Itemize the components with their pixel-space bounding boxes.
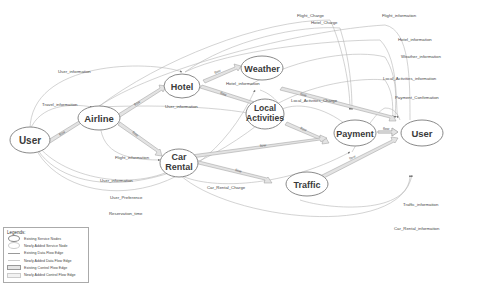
svg-text:Hotel: Hotel — [171, 82, 194, 92]
svg-text:Local: Local — [254, 103, 276, 113]
label-user-information: User_information — [100, 178, 133, 183]
svg-text:Activities: Activities — [246, 113, 284, 123]
node-local-activities: Local Activities — [246, 99, 284, 129]
legend-item: Existing Data Flow Edge — [4, 250, 88, 257]
label-user-preference: User_Preference — [110, 195, 143, 200]
node-airline: Airline — [78, 106, 120, 130]
legend-item: Newly Added Data Flow Edge — [4, 257, 88, 264]
label-payment-confirmation: Payment_Confirmation — [395, 95, 439, 100]
node-user-destination: User — [401, 120, 443, 146]
svg-text:Car: Car — [171, 152, 187, 162]
label-user-information: User_information — [58, 69, 91, 74]
existing-data-edge-icon — [8, 253, 20, 254]
existing-node-icon — [8, 235, 20, 242]
svg-text:Airline: Airline — [84, 113, 114, 124]
label-hotel-information: Hotel_information — [226, 81, 260, 86]
svg-text:User: User — [411, 128, 432, 139]
cflow-airline-car — [118, 122, 162, 156]
label-traffic-information: Traffic_information — [403, 202, 439, 207]
svg-text:User: User — [19, 135, 41, 146]
label-user-information: User_information — [165, 104, 198, 109]
node-traffic: Traffic — [286, 172, 328, 196]
label-flight-information: Flight_information — [382, 13, 417, 18]
label-local-activities-information: Local_Activities_information — [383, 76, 437, 81]
label-reservation-time: Reservation_time — [109, 211, 143, 216]
edge-user-car-userinfo — [30, 130, 172, 180]
legend-item: Existing Control Flow Edge — [4, 264, 88, 271]
label-hotel-information: Hotel_information — [398, 37, 432, 42]
svg-text:Weather: Weather — [244, 64, 280, 74]
svg-text:Traffic: Traffic — [293, 180, 320, 190]
cflow-label: flow — [383, 127, 390, 131]
label-car-rental-charge: Car_Rental_Charge — [207, 185, 246, 190]
new-control-edge-icon — [7, 273, 21, 278]
label-local-activities-charge: Local_Activities_Charge — [291, 98, 338, 103]
node-hotel: Hotel — [164, 74, 200, 98]
label-weather-information: Weather_information — [401, 54, 441, 59]
cflow-car-traffic — [190, 159, 272, 183]
new-data-edge-icon — [8, 260, 20, 261]
label-car-rental-information: Car_Rental_information — [394, 226, 440, 231]
cflow-weather-user — [280, 87, 396, 121]
node-payment: Payment — [334, 120, 376, 146]
existing-control-edge-icon — [7, 265, 21, 270]
legend-item: Newly Added Service Node — [4, 242, 88, 249]
label-flight-charge: Flight_Charge — [297, 13, 325, 18]
cflow-label: flow — [260, 143, 267, 148]
label-flight-information: Flight_information — [115, 155, 150, 160]
node-car-rental: Car Rental — [160, 149, 198, 177]
svg-text:Payment: Payment — [336, 129, 374, 139]
legend: Legends: Existing Service Nodes Newly Ad… — [3, 227, 89, 283]
node-weather: Weather — [241, 56, 283, 80]
label-travel-information: Travel_information — [42, 102, 78, 107]
label-hotel-charge: Hotel_Charge — [311, 20, 338, 25]
new-node-icon — [8, 242, 20, 249]
node-user-source: User — [10, 127, 50, 153]
svg-text:Rental: Rental — [165, 162, 193, 172]
legend-item: Newly Added Control Flow Edge — [4, 271, 88, 278]
legend-item: Existing Service Nodes — [4, 235, 88, 242]
